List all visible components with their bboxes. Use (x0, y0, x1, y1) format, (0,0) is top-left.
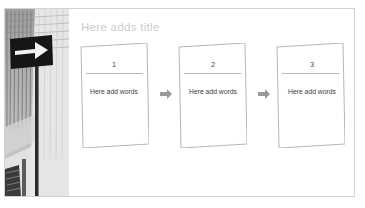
step-text: Here add words (279, 88, 345, 95)
step-number: 1 (79, 60, 149, 69)
page-title: Here adds title (81, 21, 160, 33)
slide-canvas: Here adds title 1 Here add words (4, 8, 355, 197)
street-sign-photo (5, 9, 69, 197)
flow-step-1[interactable]: 1 Here add words (79, 43, 149, 148)
slide-content: Here adds title 1 Here add words (69, 9, 354, 196)
card-outline (79, 43, 149, 148)
flow-step-3[interactable]: 3 Here add words (275, 43, 345, 148)
card-outline (275, 43, 345, 148)
card-outline (177, 43, 247, 148)
step-number: 2 (179, 60, 247, 69)
step-divider (282, 73, 339, 74)
step-divider (184, 73, 241, 74)
process-flow: 1 Here add words 2 Here add words (79, 43, 346, 161)
arrow-right-icon (257, 87, 271, 101)
flow-step-2[interactable]: 2 Here add words (177, 43, 247, 148)
step-divider (86, 73, 143, 74)
step-text: Here add words (79, 88, 149, 95)
step-text: Here add words (179, 88, 247, 95)
step-number: 3 (279, 60, 345, 69)
arrow-right-icon (159, 87, 173, 101)
